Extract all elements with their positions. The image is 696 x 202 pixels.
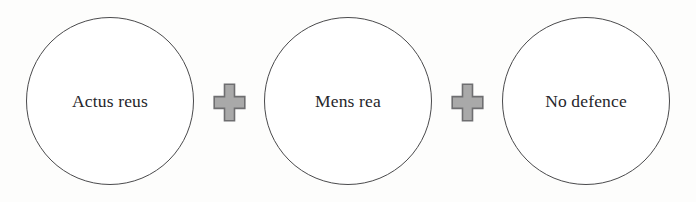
circle-label-actus-reus: Actus reus: [60, 91, 160, 111]
formula-row: Actus reus Mens rea No defence: [0, 0, 696, 202]
plus-icon: [213, 83, 246, 122]
plus-icon: [451, 83, 484, 122]
circle-label-no-defence: No defence: [533, 91, 639, 111]
circle-label-mens-rea: Mens rea: [303, 91, 393, 111]
criminal-liability-diagram: Actus reus Mens rea No defence: [0, 0, 696, 202]
circle-node-no-defence[interactable]: No defence: [502, 17, 670, 185]
circle-node-actus-reus[interactable]: Actus reus: [26, 17, 194, 185]
operator-plus-1: [194, 83, 264, 122]
operator-plus-2: [432, 83, 502, 122]
circle-node-mens-rea[interactable]: Mens rea: [264, 17, 432, 185]
